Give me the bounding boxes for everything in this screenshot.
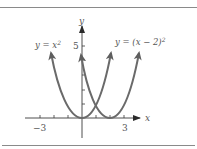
x-axis-label: x	[145, 113, 150, 123]
y-axis-label: y	[78, 16, 85, 26]
x-tick-label-neg3: −3	[33, 123, 47, 133]
curve-y-equals-x-squared-left	[51, 53, 82, 118]
parabola-chart: y x 5 −3 3 y = x2 y = (x − 2)2	[0, 0, 197, 149]
curve-y-equals-x-minus-2-squared	[110, 53, 139, 118]
curve-label-x-minus-2-squared: y = (x − 2)2	[114, 36, 166, 47]
curve-label-x-squared: y = x2	[34, 39, 61, 50]
x-tick-label-3: 3	[122, 123, 128, 133]
y-tick-label-5: 5	[73, 41, 79, 51]
curve-y-equals-x-minus-2-squared-left	[81, 55, 110, 118]
